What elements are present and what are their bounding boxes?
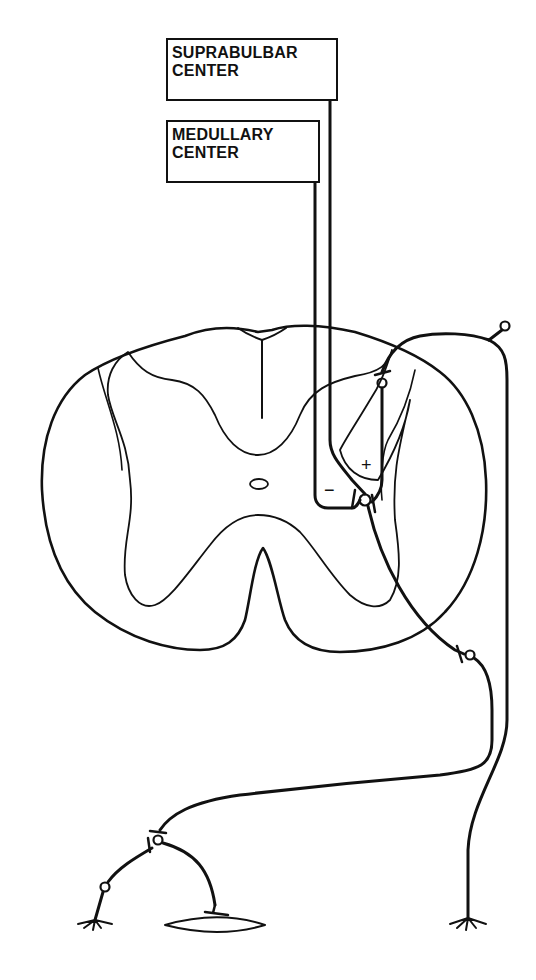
label-line: CENTER bbox=[172, 62, 332, 80]
interneuron-axon bbox=[372, 388, 382, 502]
motor-synapse-left bbox=[352, 490, 355, 508]
left-nerve-ending-icon bbox=[78, 920, 112, 930]
left-branch bbox=[108, 848, 152, 882]
right-nerve-ending-icon bbox=[450, 918, 486, 930]
central-canal bbox=[250, 479, 268, 489]
lower-synapse-bar bbox=[150, 831, 166, 833]
sensory-terminal-node bbox=[501, 322, 510, 331]
smooth-muscle-cell bbox=[165, 918, 265, 932]
suprabulbar-descending-tract bbox=[330, 98, 365, 494]
sensory-afferent-fiber bbox=[468, 340, 507, 918]
label-line: MEDULLARY bbox=[172, 126, 314, 144]
label-line: SUPRABULBAR bbox=[172, 44, 332, 62]
medullary-center-label: MEDULLARY CENTER bbox=[166, 120, 320, 183]
lower-ganglion-cell-body bbox=[154, 836, 163, 845]
left-branch-node bbox=[101, 883, 110, 892]
sensory-collateral bbox=[489, 330, 502, 340]
muscle-ending-bar bbox=[205, 905, 228, 915]
medial-white-matter-line bbox=[381, 370, 415, 500]
left-branch-end bbox=[95, 892, 103, 920]
postganglionic-fiber bbox=[160, 658, 492, 830]
afferent-fiber bbox=[382, 334, 489, 372]
excitatory-sign: + bbox=[361, 455, 372, 476]
preganglionic-axon bbox=[368, 506, 464, 654]
label-line: CENTER bbox=[172, 144, 314, 162]
suprabulbar-center-label: SUPRABULBAR CENTER bbox=[166, 38, 338, 101]
lateral-white-matter-line bbox=[98, 368, 122, 470]
inhibitory-sign: − bbox=[324, 480, 335, 501]
right-branch bbox=[163, 843, 215, 905]
